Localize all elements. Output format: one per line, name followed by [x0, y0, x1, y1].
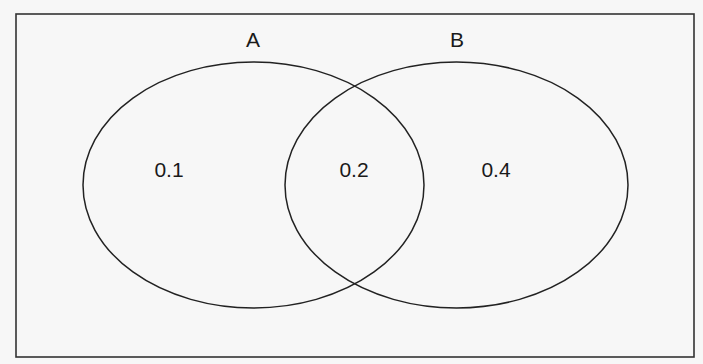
a-only-value: 0.1: [154, 158, 183, 181]
universe-rectangle: [16, 14, 694, 357]
set-a-ellipse: [83, 62, 424, 308]
set-b-ellipse: [285, 62, 628, 308]
b-only-value: 0.4: [481, 158, 511, 181]
set-b-label: B: [450, 28, 464, 51]
venn-diagram: A B 0.1 0.2 0.4: [0, 0, 703, 364]
set-a-label: A: [246, 28, 260, 51]
intersection-value: 0.2: [339, 158, 368, 181]
